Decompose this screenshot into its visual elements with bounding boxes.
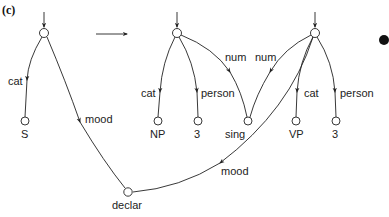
edge-label-num-vp: num: [255, 52, 276, 63]
node-vp-3: [332, 117, 340, 125]
graph-canvas: [0, 0, 389, 217]
edge-cat-left: [27, 37, 42, 80]
node-NP: [154, 117, 162, 125]
leaf-label-S: S: [21, 129, 28, 140]
leaf-label-np-3: 3: [194, 129, 200, 140]
left-root-node: [40, 29, 49, 38]
feature-structure-diagram: (c): [0, 0, 389, 217]
leaf-label-vp-3: 3: [332, 129, 338, 140]
leaf-label-NP: NP: [150, 129, 165, 140]
edge-cat-np: [160, 37, 175, 92]
bullet-dot: [379, 35, 389, 45]
node-sing: [244, 117, 252, 125]
edge-label-person-np: person: [201, 88, 235, 99]
edge-label-cat-left: cat: [8, 76, 23, 87]
np-root-node: [173, 29, 182, 38]
node-S: [21, 117, 29, 125]
edge-mood-left: [47, 37, 80, 122]
edge-label-num-np: num: [225, 52, 246, 63]
edge-num-np: [181, 35, 230, 72]
edge-label-mood-left: mood: [85, 114, 113, 125]
node-declar: [124, 188, 132, 196]
edge-label-cat-np: cat: [141, 88, 156, 99]
edge-person-np: [179, 37, 197, 92]
edge-person-vp: [317, 37, 335, 92]
edge-label-cat-vp: cat: [304, 88, 319, 99]
edge-label-mood-vp: mood: [221, 166, 249, 177]
vp-root-node: [311, 29, 320, 38]
node-np-3: [194, 117, 202, 125]
leaf-label-VP: VP: [289, 129, 304, 140]
leaf-label-declar: declar: [112, 200, 142, 211]
leaf-label-sing: sing: [225, 129, 245, 140]
edge-label-person-vp: person: [340, 88, 374, 99]
node-VP: [292, 117, 300, 125]
